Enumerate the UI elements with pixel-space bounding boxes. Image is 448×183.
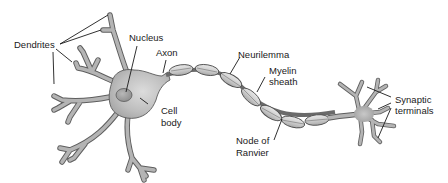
label-nucleus: Nucleus — [129, 32, 164, 43]
label-myelin-sheath-line2: sheath — [269, 76, 298, 87]
label-node-of-ranvier-line1: Node of — [236, 135, 270, 146]
label-myelin-sheath-line1: Myelin — [269, 65, 296, 76]
label-cell-body-line2: body — [161, 117, 182, 128]
label-synaptic-terminals-line1: Synaptic — [395, 94, 432, 105]
myelin-sheath-segments — [168, 63, 329, 130]
label-synaptic-terminals-line2: terminals — [395, 105, 434, 116]
label-dendrites: Dendrites — [14, 39, 55, 50]
label-axon: Axon — [156, 47, 178, 58]
synaptic-terminals — [340, 80, 394, 144]
label-node-of-ranvier-line2: Ranvier — [236, 147, 269, 158]
nucleus — [116, 89, 132, 102]
neuron-diagram: Dendrites Nucleus Axon Cell body Neurile… — [0, 0, 448, 183]
myelin-segment — [168, 63, 193, 77]
label-neurilemma: Neurilemma — [238, 49, 290, 60]
label-cell-body-line1: Cell — [161, 105, 177, 116]
